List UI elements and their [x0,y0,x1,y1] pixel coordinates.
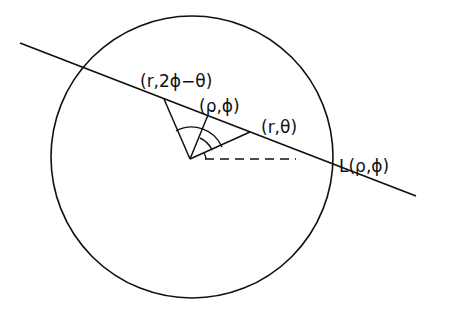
label-point: (r,θ) [261,117,297,137]
label-line: L(ρ,ϕ) [339,156,389,176]
angle-arc-inner [204,153,206,159]
diagram-canvas: (r,2ϕ−θ) (ρ,ϕ) (r,θ) L(ρ,ϕ) [0,0,450,311]
circle [51,16,333,298]
label-reflected-point: (r,2ϕ−θ) [140,71,212,91]
angle-arc-middle [200,138,212,150]
label-foot-point: (ρ,ϕ) [199,96,240,116]
